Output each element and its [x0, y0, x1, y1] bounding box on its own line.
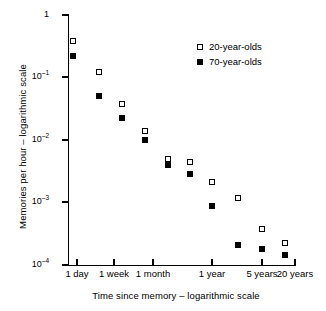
data-point-70-year-olds	[70, 53, 76, 59]
chart-container: Memories per hour – logarithmic scale 11…	[0, 0, 326, 311]
data-point-20-year-olds	[235, 195, 241, 201]
filled-square-icon	[197, 59, 203, 65]
legend-item-70-year-olds: 70-year-olds	[197, 55, 262, 68]
y-axis-title: Memories per hour – logarithmic scale	[17, 32, 28, 262]
data-point-20-year-olds	[142, 128, 148, 134]
data-point-20-year-olds	[209, 179, 215, 185]
data-point-70-year-olds	[142, 137, 148, 143]
data-point-70-year-olds	[187, 171, 193, 177]
x-axis-tick-label: 1 year	[199, 268, 225, 279]
legend-label: 70-year-olds	[209, 56, 262, 67]
data-point-70-year-olds	[235, 242, 241, 248]
chart-legend: 20-year-olds 70-year-olds	[197, 40, 262, 70]
y-axis-tick-label: 10–2	[0, 135, 58, 144]
x-axis-tick-label: 1 day	[65, 268, 88, 279]
data-point-70-year-olds	[209, 203, 215, 209]
y-axis-tick-label: 10–4	[0, 260, 58, 269]
legend-label: 20-year-olds	[209, 41, 262, 52]
y-axis-tick-label: 10–1	[0, 72, 58, 81]
x-axis-tick-label: 20 years	[277, 268, 313, 279]
x-axis-tick-label: 5 years	[246, 268, 277, 279]
x-axis-tick-label: 1 month	[136, 268, 170, 279]
data-point-70-year-olds	[165, 162, 171, 168]
data-point-70-year-olds	[259, 246, 265, 252]
data-point-20-year-olds	[70, 38, 76, 44]
data-point-20-year-olds	[282, 240, 288, 246]
data-point-20-year-olds	[96, 69, 102, 75]
x-axis-title: Time since memory – logarithmic scale	[56, 290, 296, 301]
x-axis-tick-label: 1 week	[99, 268, 129, 279]
data-point-70-year-olds	[96, 93, 102, 99]
data-point-20-year-olds	[119, 101, 125, 107]
data-point-20-year-olds	[187, 159, 193, 165]
data-point-70-year-olds	[282, 252, 288, 258]
y-axis-tick-label: 1	[0, 10, 58, 19]
legend-item-20-year-olds: 20-year-olds	[197, 40, 262, 53]
open-square-icon	[197, 44, 203, 50]
y-axis-tick-label: 10–3	[0, 197, 58, 206]
data-point-20-year-olds	[259, 226, 265, 232]
data-point-70-year-olds	[119, 115, 125, 121]
